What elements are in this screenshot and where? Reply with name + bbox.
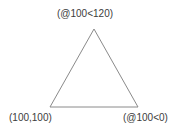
base-left-coordinate-label: (100,100) [9, 112, 52, 124]
apex-coordinate-label: (@100<120) [57, 8, 113, 20]
base-right-coordinate-label: (@100<0) [123, 112, 168, 124]
triangle-outline [50, 29, 138, 107]
diagram-canvas: (@100<120) (100,100) (@100<0) [0, 0, 187, 132]
